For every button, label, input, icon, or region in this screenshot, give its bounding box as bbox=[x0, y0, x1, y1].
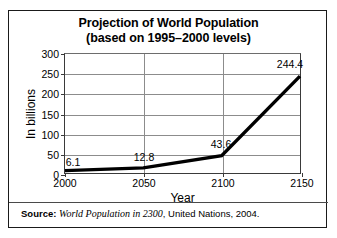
source-prefix: Source: bbox=[21, 208, 56, 219]
population-line-series bbox=[65, 54, 300, 173]
data-point-label: 12.8 bbox=[134, 151, 154, 163]
y-tick-label: 50 bbox=[47, 149, 59, 161]
source-note: Source: World Population in 2300, United… bbox=[21, 208, 259, 219]
data-point-label: 244.4 bbox=[277, 58, 303, 70]
y-tick-label: 100 bbox=[41, 129, 59, 141]
source-publication-title: World Population in 2300 bbox=[59, 208, 163, 219]
y-tick-label: 300 bbox=[41, 48, 59, 60]
chart-title-line1: Projection of World Population bbox=[78, 16, 258, 30]
x-tick-label: 2050 bbox=[132, 177, 155, 189]
x-tick-label: 2100 bbox=[211, 177, 234, 189]
y-tick-label: 250 bbox=[41, 68, 59, 80]
source-divider bbox=[9, 202, 328, 203]
y-tick-label: 150 bbox=[41, 109, 59, 121]
data-point-label: 6.1 bbox=[66, 156, 81, 168]
y-axis-title-label: In billions bbox=[24, 88, 38, 138]
y-axis-title: In billions bbox=[23, 53, 39, 174]
series-polyline bbox=[65, 76, 300, 171]
chart-title-line2: (based on 1995–2000 levels) bbox=[9, 31, 328, 46]
plot-area: 0501001502002503002000205021002150 6.112… bbox=[64, 53, 301, 174]
chart-title: Projection of World Population (based on… bbox=[9, 16, 328, 46]
data-point-label: 43.6 bbox=[211, 138, 231, 150]
x-tick-label: 2000 bbox=[53, 177, 76, 189]
x-tick-label: 2150 bbox=[290, 177, 313, 189]
source-rest: , United Nations, 2004. bbox=[163, 208, 260, 219]
y-tick-label: 200 bbox=[41, 88, 59, 100]
figure-frame: Projection of World Population (based on… bbox=[8, 10, 327, 228]
